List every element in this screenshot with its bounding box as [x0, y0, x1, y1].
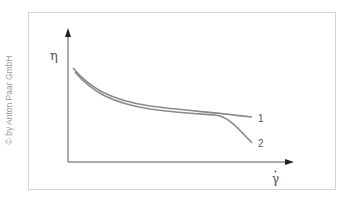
curve-1-label: 1: [258, 113, 264, 124]
x-axis: [68, 159, 294, 165]
viscosity-curve-diagram: η γ 1 2: [0, 0, 354, 201]
y-axis-label: η: [50, 48, 58, 63]
diagram-canvas: © by Anton Paar GmbH η γ 1 2: [0, 0, 354, 201]
x-axis-label-dot: [275, 171, 277, 173]
x-axis-label: γ: [272, 172, 279, 186]
y-axis: [65, 28, 71, 162]
y-axis-arrow-icon: [65, 28, 71, 37]
x-axis-arrow-icon: [285, 159, 294, 165]
curve-2-label: 2: [258, 138, 264, 149]
